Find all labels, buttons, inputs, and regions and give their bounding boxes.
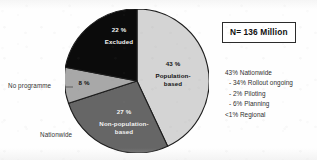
legend-line: - 34% Rollout ongoing (225, 78, 315, 88)
outer-label-no-programme: No programme (8, 82, 51, 89)
slice-percent-no-programme: 8 % (72, 79, 96, 86)
slice-name-non-population-based-line1: Non-population- (85, 120, 163, 127)
slice-percent-non-population-based: 27 % (85, 108, 163, 115)
legend-line: - 2% Piloting (225, 89, 315, 99)
legend-breakdown: 43% Nationwide - 34% Rollout ongoing - 2… (225, 68, 315, 120)
legend-line: - 6% Planning (225, 99, 315, 109)
slice-percent-excluded: 22 % (88, 26, 150, 33)
total-callout-box: N= 136 Million (222, 22, 296, 43)
legend-line: <1% Regional (225, 110, 315, 120)
total-callout-text: N= 136 Million (230, 27, 288, 37)
slice-name-population-based-line1: Population- (140, 72, 206, 79)
pie-chart-figure: 43 % Population- based 27 % Non-populati… (0, 0, 317, 160)
slice-percent-population-based: 43 % (140, 60, 206, 67)
outer-label-nationwide: Nationwide (40, 131, 72, 138)
legend-line: 43% Nationwide (225, 68, 315, 78)
slice-name-excluded: Excluded (88, 38, 150, 45)
slice-label-population-based: 43 % Population- based (140, 60, 206, 87)
slice-label-excluded: 22 % Excluded (88, 26, 150, 46)
slice-label-no-programme: 8 % (72, 79, 96, 86)
slice-label-non-population-based: 27 % Non-population- based (85, 108, 163, 135)
slice-name-non-population-based-line2: based (85, 128, 163, 135)
slice-name-population-based-line2: based (140, 80, 206, 87)
